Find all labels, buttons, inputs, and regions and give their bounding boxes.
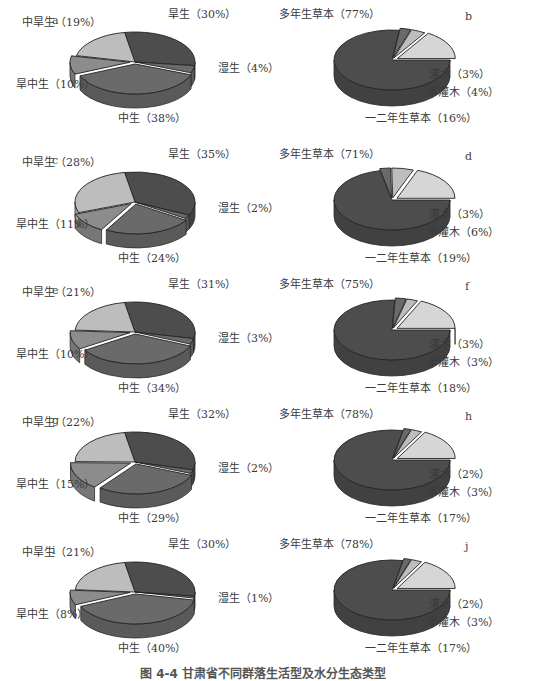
- pie-slice: [75, 562, 135, 592]
- slice-label: 一二年生草本（17%）: [365, 512, 477, 525]
- panel-letter: i: [52, 544, 56, 557]
- slice-label: 灌木（2%）: [429, 598, 490, 611]
- panel-letter: f: [465, 280, 469, 293]
- slice-label: 半灌木（3%）: [427, 486, 499, 499]
- pie-panel-f: 多年生草本（75%）灌木（3%）半灌木（3%）一二年生草本（18%）f: [267, 270, 534, 400]
- panel-letter: c: [52, 154, 58, 167]
- panel-letter: h: [465, 410, 472, 423]
- slice-label: 中生（29%）: [118, 512, 186, 525]
- pie-panel-a: 旱生（30%）湿生（4%）中生（38%）旱中生（10%）中旱生（19%）a: [0, 0, 267, 130]
- slice-label: 旱生（30%）: [168, 8, 236, 21]
- slice-label: 旱中生（11%）: [16, 218, 95, 231]
- pie-panel-i: 旱生（30%）湿生（1%）中生（40%）旱中生（8%）中旱生（21%）i: [0, 530, 267, 660]
- panel-letter: d: [465, 150, 472, 163]
- panel-letter: a: [52, 14, 59, 27]
- slice-label: 一二年生草本（19%）: [365, 252, 477, 265]
- slice-label: 中生（38%）: [118, 112, 186, 125]
- slice-label: 多年生草本（75%）: [279, 278, 380, 291]
- panel-letter: j: [465, 540, 468, 553]
- slice-label: 多年生草本（77%）: [279, 8, 380, 21]
- slice-label: 中旱生（28%）: [22, 156, 101, 169]
- panel-letter: e: [52, 284, 59, 297]
- pie-slice: [125, 32, 195, 66]
- pie-panel-c: 旱生（35%）湿生（2%）中生（24%）旱中生（11%）中旱生（28%）c: [0, 140, 267, 270]
- slice-label: 旱生（31%）: [168, 278, 236, 291]
- slice-label: 旱中生（10%）: [16, 348, 95, 361]
- slice-label: 一二年生草本（16%）: [365, 112, 477, 125]
- slice-label: 半灌木（6%）: [427, 226, 499, 239]
- pie-panel-b: 多年生草本（77%）灌木（3%）半灌木（4%）一二年生草本（16%）b: [267, 0, 534, 130]
- slice-label: 旱生（35%）: [168, 148, 236, 161]
- pie-slice: [75, 302, 135, 332]
- pie-slice: [125, 302, 195, 339]
- slice-label: 旱中生（15%）: [16, 478, 95, 491]
- slice-label: 多年生草本（71%）: [279, 148, 380, 161]
- slice-label: 中生（34%）: [118, 382, 186, 395]
- pie-panel-h: 多年生草本（78%）灌木（2%）半灌木（3%）一二年生草本（17%）h: [267, 400, 534, 530]
- pie-panel-d: 多年生草本（71%）灌木（3%）半灌木（6%）一二年生草本（19%）d: [267, 140, 534, 270]
- slice-label: 旱中生（10%）: [16, 78, 95, 91]
- pie-slice: [75, 432, 135, 462]
- figure-caption: 图 4-4 甘肃省不同群落生活型及水分生态类型: [140, 664, 386, 681]
- pie-slice: [125, 562, 195, 596]
- slice-label: 中生（24%）: [118, 252, 186, 265]
- slice-label: 中旱生（19%）: [22, 16, 101, 29]
- slice-label: 旱生（32%）: [168, 408, 236, 421]
- slice-label: 中旱生（22%）: [22, 416, 101, 429]
- slice-label: 一二年生草本（18%）: [365, 382, 477, 395]
- slice-label: 中生（40%）: [118, 642, 186, 655]
- slice-label: 旱中生（8%）: [16, 608, 88, 621]
- slice-label: 灌木（3%）: [429, 208, 490, 221]
- slice-label: 旱生（30%）: [168, 538, 236, 551]
- slice-label: 半灌木（3%）: [427, 356, 499, 369]
- slice-label: 多年生草本（78%）: [279, 408, 380, 421]
- slice-label: 半灌木（4%）: [427, 86, 499, 99]
- slice-label: 一二年生草本（17%）: [365, 642, 477, 655]
- slice-label: 多年生草本（78%）: [279, 538, 380, 551]
- pie-panel-g: 旱生（32%）湿生（2%）中生（29%）旱中生（15%）中旱生（22%）g: [0, 400, 267, 530]
- pie-panel-j: 多年生草本（78%）灌木（2%）半灌木（3%）一二年生草本（17%）j: [267, 530, 534, 660]
- panel-letter: g: [52, 414, 59, 427]
- slice-label: 灌木（3%）: [429, 338, 490, 351]
- panel-letter: b: [465, 10, 472, 23]
- slice-label: 灌木（3%）: [429, 68, 490, 81]
- slice-label: 灌木（2%）: [429, 468, 490, 481]
- pie-panel-e: 旱生（31%）湿生（3%）中生（34%）旱中生（10%）中旱生（21%）e: [0, 270, 267, 400]
- slice-label: 半灌木（3%）: [427, 616, 499, 629]
- slice-label: 中旱生（21%）: [22, 546, 101, 559]
- slice-label: 中旱生（21%）: [22, 286, 101, 299]
